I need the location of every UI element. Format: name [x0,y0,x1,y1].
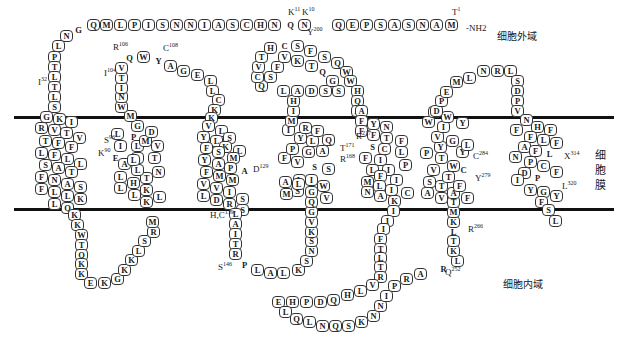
amino-acid-residue: A [279,176,292,188]
residue-position-label: H,C139 [210,209,234,220]
amino-acid-residue: N [477,65,490,77]
amino-acid-residue: A [414,268,427,280]
amino-acid-residue: L [543,148,556,160]
amino-acid-residue: F [453,180,466,192]
amino-acid-residue: A [164,60,177,72]
amino-acid-residue: F [35,171,48,183]
amino-acid-residue: L [153,191,166,203]
amino-acid-residue: D [305,85,318,97]
amino-acid-residue: V [197,178,210,190]
amino-acid-residue: S [74,181,87,193]
amino-acid-residue: N [184,19,197,31]
amino-acid-residue: R [35,122,48,134]
amino-acid-residue: C [240,19,253,31]
amino-acid-residue: Y [456,117,469,129]
amino-acid-residue: R [299,122,312,134]
region-label-extracellular: 细胞外域 [497,28,537,43]
residue-position-label: R106 [113,41,128,52]
amino-acid-residue: D [145,126,158,138]
residue-position-label: X314 [564,150,580,161]
amino-acid-residue: T [435,152,448,164]
amino-acid-residue: A [238,165,251,177]
amino-acid-residue: G [177,65,190,77]
amino-acid-residue: L [48,198,61,210]
amino-acid-residue: R [400,273,413,285]
amino-acid-residue: I [305,174,318,186]
residue-position-label: K10 [302,6,315,17]
amino-acid-residue: Y [550,190,563,202]
region-label-membrane: 细胞膜 [594,148,606,193]
amino-acid-residue: Q [290,313,303,325]
amino-acid-residue: M [226,174,239,186]
amino-acid-residue: A [388,19,401,31]
amino-acid-residue: G [302,146,315,158]
amino-acid-residue: G [72,24,85,36]
amino-acid-residue: S [374,19,387,31]
amino-acid-residue: S [156,19,169,31]
amino-acid-residue: V [291,156,304,168]
amino-acid-residue: L [277,85,290,97]
amino-acid-residue: I [198,19,211,31]
residue-position-label: R266 [468,223,483,234]
amino-acid-residue: G [446,135,459,147]
residue-position-label: L320 [562,180,577,191]
amino-acid-residue: L [303,316,316,328]
amino-acid-residue: G [326,75,339,87]
residue-position-label: D129 [253,163,269,174]
amino-acid-residue: M [450,76,463,88]
amino-acid-residue: Q [329,320,342,332]
amino-acid-residue: T [39,135,52,147]
amino-acid-residue: A [52,162,65,174]
amino-acid-residue: Q [123,52,136,64]
amino-acid-residue: E [440,86,453,98]
residue-position-label: S146 [218,261,232,272]
residue-position-label: Q252 [445,266,461,277]
amino-acid-residue: L [277,267,290,279]
amino-acid-residue: W [137,51,150,63]
amino-acid-residue: F [52,137,65,149]
residue-position-label: I32 [38,76,47,87]
amino-acid-residue: F [35,183,48,195]
amino-acid-residue: K [140,196,153,208]
amino-acid-residue: S [423,176,436,188]
amino-acid-residue: K [291,55,304,67]
amino-acid-residue: I [114,140,127,152]
amino-acid-residue: P [531,172,544,184]
amino-acid-residue: P [300,296,313,308]
n-terminus-label: -NH2 [466,23,487,33]
residue-position-label: T171 [340,142,355,153]
amino-acid-residue: F [200,166,213,178]
amino-acid-residue: M [280,188,293,200]
amino-acid-residue: Q [322,134,335,146]
amino-acid-residue: S [226,19,239,31]
amino-acid-residue: L [354,285,367,297]
amino-acid-residue: L [35,147,48,159]
amino-acid-residue: P [238,259,251,271]
amino-acid-residue: M [146,216,159,228]
amino-acid-residue: S [308,161,321,173]
amino-acid-residue: V [435,192,448,204]
amino-acid-residue: T [442,171,455,183]
residue-position-label: Y200 [307,26,323,37]
residue-position-label: S96 [104,134,115,145]
amino-acid-residue: N [48,174,61,186]
amino-acid-residue: Q [327,294,340,306]
residue-position-label: T1 [452,6,461,17]
amino-acid-residue: Q [87,19,100,31]
amino-acid-residue: P [224,162,237,174]
amino-acid-residue: D [314,296,327,308]
amino-acid-residue: Q [332,19,345,31]
amino-acid-residue: F [304,45,317,57]
amino-acid-residue: C [278,40,291,52]
amino-acid-residue: N [268,19,281,31]
amino-acid-residue: V [278,51,291,63]
amino-acid-residue: P [128,19,141,31]
amino-acid-residue: E [191,69,204,81]
residue-position-label: C284 [473,150,488,161]
amino-acid-residue: K [74,193,87,205]
amino-acid-residue: N [361,186,374,198]
amino-acid-residue: N [152,166,165,178]
amino-acid-residue: C [537,160,550,172]
amino-acid-residue: W [317,180,330,192]
amino-acid-residue: L [114,182,127,194]
